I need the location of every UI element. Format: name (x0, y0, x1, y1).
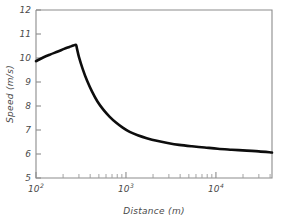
plot-frame (36, 10, 272, 178)
x-tick-exponent: 2 (40, 182, 44, 189)
x-tick-exponent: 3 (130, 182, 134, 189)
y-tick-label: 10 (20, 53, 32, 63)
y-tick-label: 8 (25, 101, 31, 111)
y-axis: 56789101112 (20, 5, 41, 183)
y-axis-title: Speed (m/s) (5, 65, 15, 123)
y-tick-label: 11 (20, 29, 31, 39)
y-tick-label: 6 (25, 149, 31, 159)
y-tick-label: 5 (25, 173, 31, 183)
x-axis-title: Distance (m) (123, 206, 185, 216)
chart-figure: 56789101112 102103104 Distance (m) Speed… (0, 0, 283, 223)
x-tick-exponent: 4 (220, 182, 224, 189)
speed-curve (36, 45, 272, 153)
data-series-group (36, 45, 272, 153)
x-tick-label: 102 (28, 182, 44, 194)
y-tick-label: 9 (25, 77, 31, 87)
axes-box (36, 10, 272, 178)
x-axis: 102103104 (28, 172, 270, 194)
speed-vs-distance-chart: 56789101112 102103104 Distance (m) Speed… (0, 0, 283, 223)
y-tick-label: 12 (20, 5, 32, 15)
x-tick-label: 103 (118, 182, 134, 194)
y-tick-label: 7 (25, 125, 31, 135)
x-tick-label: 104 (208, 182, 224, 194)
